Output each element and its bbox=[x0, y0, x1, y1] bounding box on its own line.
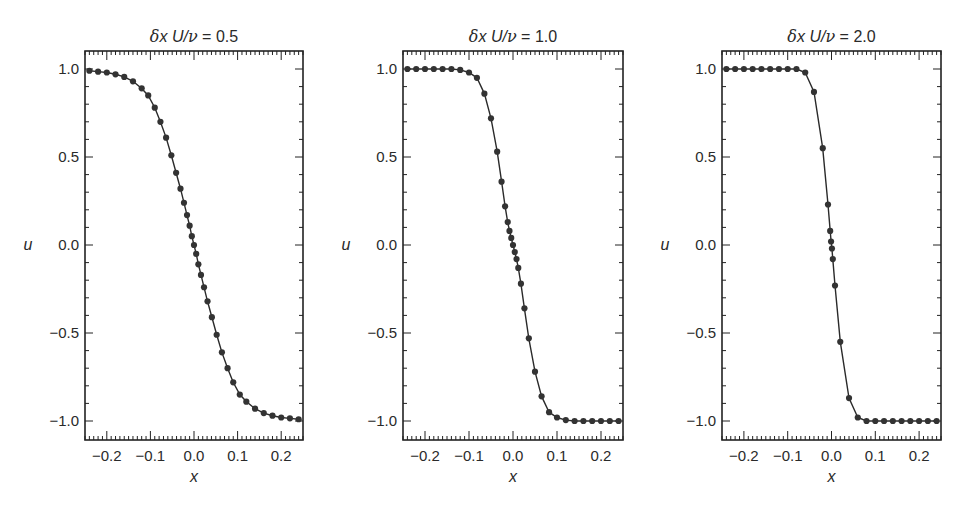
data-point bbox=[252, 406, 258, 412]
data-point bbox=[121, 74, 127, 80]
data-point bbox=[898, 418, 904, 424]
data-point bbox=[563, 417, 569, 423]
x-tick-label: −0.1 bbox=[773, 447, 803, 464]
data-point bbox=[173, 170, 179, 176]
data-point bbox=[139, 85, 145, 91]
data-markers bbox=[404, 66, 621, 424]
x-tick-label: −0.2 bbox=[92, 447, 122, 464]
y-axis-label: u bbox=[24, 236, 33, 253]
data-point bbox=[193, 251, 199, 257]
data-point bbox=[506, 228, 512, 234]
y-axis-label: u bbox=[661, 236, 670, 253]
data-point bbox=[741, 66, 747, 72]
data-point bbox=[508, 235, 514, 241]
data-point bbox=[832, 282, 838, 288]
data-point bbox=[168, 152, 174, 158]
x-tick-label: 0.1 bbox=[865, 447, 886, 464]
data-point bbox=[195, 261, 201, 267]
data-point bbox=[413, 66, 419, 72]
data-point bbox=[855, 414, 861, 420]
y-tick-label: 0.5 bbox=[58, 148, 79, 165]
data-point bbox=[830, 256, 836, 262]
data-point bbox=[204, 298, 210, 304]
data-point bbox=[811, 89, 817, 95]
x-axis-label: x bbox=[508, 468, 518, 485]
data-point bbox=[827, 228, 833, 234]
panel-title: δx U/ν = 1.0 bbox=[469, 27, 557, 46]
data-point bbox=[112, 71, 118, 77]
x-tick-label: −0.2 bbox=[729, 447, 759, 464]
data-point bbox=[201, 284, 207, 290]
data-point bbox=[502, 203, 508, 209]
data-point bbox=[916, 418, 922, 424]
data-point bbox=[515, 265, 521, 271]
data-point bbox=[526, 335, 532, 341]
data-point bbox=[494, 149, 500, 155]
data-point bbox=[431, 66, 437, 72]
data-point bbox=[907, 418, 913, 424]
data-point bbox=[881, 418, 887, 424]
data-point bbox=[191, 242, 197, 248]
y-tick-label: −1.0 bbox=[367, 412, 397, 429]
x-tick-label: 0.0 bbox=[821, 447, 842, 464]
data-point bbox=[767, 66, 773, 72]
x-tick-label: 0.2 bbox=[271, 447, 292, 464]
data-point bbox=[532, 369, 538, 375]
data-point bbox=[776, 66, 782, 72]
data-point bbox=[130, 78, 136, 84]
data-point bbox=[829, 245, 835, 251]
data-point bbox=[510, 242, 516, 248]
data-point bbox=[243, 399, 249, 405]
y-tick-label: 1.0 bbox=[695, 60, 716, 77]
data-point bbox=[104, 69, 110, 75]
y-tick-label: 1.0 bbox=[58, 60, 79, 77]
y-tick-label: 0.5 bbox=[695, 148, 716, 165]
data-point bbox=[890, 418, 896, 424]
data-point bbox=[758, 66, 764, 72]
y-tick-label: 0.0 bbox=[695, 236, 716, 253]
data-point bbox=[825, 201, 831, 207]
data-point bbox=[145, 92, 151, 98]
data-point bbox=[802, 69, 808, 75]
data-point bbox=[457, 67, 463, 73]
data-point bbox=[95, 69, 101, 75]
data-point bbox=[224, 365, 230, 371]
data-point bbox=[521, 305, 527, 311]
data-point bbox=[214, 332, 220, 338]
x-tick-label: 0.0 bbox=[184, 447, 205, 464]
data-point bbox=[750, 66, 756, 72]
panel-3: −0.2−0.10.00.10.2−1.0−0.50.00.51.0xuδx U… bbox=[661, 27, 941, 485]
data-point bbox=[589, 418, 595, 424]
data-point bbox=[152, 105, 158, 111]
data-point bbox=[219, 349, 225, 355]
data-point bbox=[481, 91, 487, 97]
data-point bbox=[846, 395, 852, 401]
panel-title: δx U/ν = 2.0 bbox=[787, 27, 875, 46]
data-point bbox=[863, 418, 869, 424]
panel-2: −0.2−0.10.00.10.2−1.0−0.50.00.51.0xuδx U… bbox=[342, 27, 623, 485]
data-point bbox=[448, 66, 454, 72]
figure: −0.2−0.10.00.10.2−1.0−0.50.00.51.0xuδx U… bbox=[0, 0, 973, 526]
data-point bbox=[505, 219, 511, 225]
data-point bbox=[793, 66, 799, 72]
data-point bbox=[512, 249, 518, 255]
data-markers bbox=[86, 68, 301, 423]
y-axis-label: u bbox=[342, 236, 351, 253]
data-point bbox=[732, 66, 738, 72]
data-point bbox=[474, 75, 480, 81]
data-point bbox=[539, 393, 545, 399]
data-point bbox=[422, 66, 428, 72]
data-point bbox=[209, 314, 215, 320]
data-point bbox=[287, 415, 293, 421]
data-point bbox=[86, 68, 92, 74]
y-tick-label: −1.0 bbox=[49, 412, 79, 429]
x-axis-label: x bbox=[827, 468, 837, 485]
data-point bbox=[404, 66, 410, 72]
x-tick-label: 0.2 bbox=[591, 447, 612, 464]
data-point bbox=[184, 212, 190, 218]
x-tick-label: −0.2 bbox=[410, 447, 440, 464]
data-point bbox=[598, 418, 604, 424]
y-tick-label: −0.5 bbox=[367, 324, 397, 341]
data-point bbox=[181, 200, 187, 206]
data-point bbox=[198, 272, 204, 278]
